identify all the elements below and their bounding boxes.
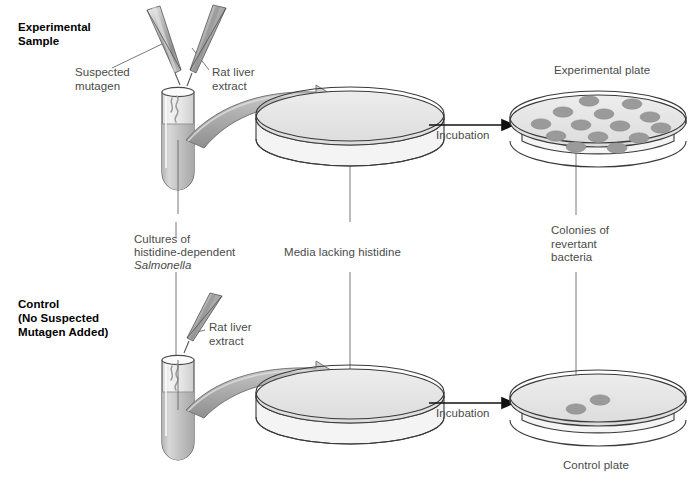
colony-3 [553, 107, 573, 117]
label-suspected-mutagen: Suspectedmutagen [75, 66, 130, 93]
colony-14 [607, 143, 627, 153]
colony-13 [566, 142, 586, 152]
colony-2 [590, 395, 610, 405]
label-cultures-salmonella: Salmonella [134, 259, 191, 273]
heading-experimental-sample: ExperimentalSample [18, 20, 91, 48]
experimental-plate [510, 91, 686, 167]
label-cultures-line1: Cultures of [134, 233, 190, 247]
label-media-lacking-histidine: Media lacking histidine [284, 246, 401, 260]
media-plate-top [256, 87, 444, 166]
label-incubation-bottom: Incubation [436, 407, 490, 421]
colony-12 [629, 133, 649, 143]
control-plate [510, 370, 686, 446]
colony-2 [622, 99, 642, 109]
label-experimental-plate: Experimental plate [554, 64, 650, 78]
colony-8 [610, 121, 630, 131]
colony-6 [531, 119, 551, 129]
label-control-plate: Control plate [563, 459, 629, 473]
label-rat-liver-extract-bottom: Rat liverextract [209, 321, 252, 348]
leader-suspected-mutagen [112, 44, 162, 68]
label-rat-liver-extract-top: Rat liverextract [212, 66, 255, 93]
colony-7 [571, 120, 591, 130]
colony-4 [594, 109, 614, 119]
colony-5 [640, 112, 660, 122]
media-plate-bottom [256, 365, 444, 444]
colony-1 [579, 96, 599, 106]
label-incubation-top: Incubation [436, 129, 490, 143]
label-colonies-revertant-bacteria: Colonies ofrevertantbacteria [551, 224, 609, 265]
colony-11 [588, 132, 608, 142]
colony-10 [546, 131, 566, 141]
label-cultures-line2: histidine-dependent [134, 246, 235, 260]
dropper-suspected-mutagen [147, 6, 181, 85]
colony-9 [651, 123, 671, 133]
heading-control-sample: Control(No SuspectedMutagen Added) [18, 297, 108, 339]
ames-test-diagram: ExperimentalSample Suspectedmutagen Rat … [0, 0, 691, 491]
test-tube-experimental [162, 87, 194, 214]
colony-1 [566, 404, 586, 414]
